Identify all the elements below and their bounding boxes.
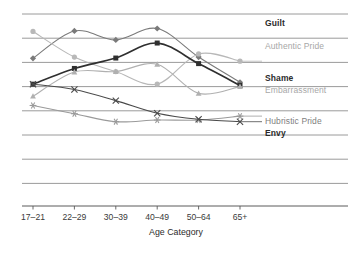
legend-label-guilt: Guilt [265,18,285,28]
x-axis-group [22,206,348,210]
data-point-diamond [154,25,160,31]
data-point-circle [196,51,201,56]
data-point-diamond [113,37,119,43]
legend-label-authentic-pride: Authentic Pride [265,41,324,51]
data-point-square [113,56,118,61]
data-point-triangle [30,93,36,98]
series-embarrassment [30,61,243,98]
series-guilt [30,25,243,85]
data-point-circle [155,82,160,87]
x-tick-label-5: 65+ [214,212,266,222]
series-envy [30,81,243,125]
chart-container: Guilt Authentic Pride Shame Embarrassmen… [0,0,352,255]
data-point-square [155,41,160,46]
data-point-square [196,61,201,66]
data-point-diamond [71,28,77,34]
series-line [33,28,240,82]
gridlines-group [22,14,348,183]
series-group [30,25,262,124]
series-line [33,105,240,121]
legend-label-shame: Shame [265,73,293,83]
series-line [33,84,240,122]
legend-label-embarrassment: Embarrassment [265,85,326,95]
legend-label-envy: Envy [265,128,286,138]
data-point-circle [72,54,77,59]
x-axis-title: Age Category [0,227,352,237]
data-point-circle [30,29,35,34]
legend-label-hubristic-pride: Hubristic Pride [265,116,322,126]
series-hubristic-pride [30,103,244,125]
